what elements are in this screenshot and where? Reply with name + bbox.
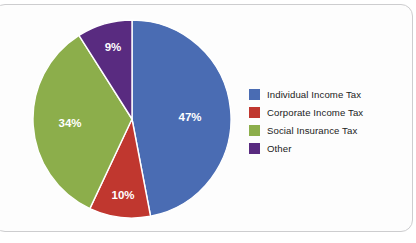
pie-chart-svg: 47%10%34%9% (32, 19, 232, 219)
pie-slice-label-other: 9% (105, 41, 122, 53)
pie-chart-area: 47%10%34%9% (32, 19, 232, 219)
legend-item-label: Individual Income Tax (267, 89, 361, 100)
pie-slice-label-individual-income-tax: 47% (178, 111, 201, 123)
legend-swatch-social-insurance-tax (249, 125, 260, 136)
chart-legend: Individual Income TaxCorporate Income Ta… (249, 86, 399, 158)
legend-item[interactable]: Corporate Income Tax (249, 104, 399, 121)
legend-item-label: Social Insurance Tax (267, 125, 357, 136)
legend-swatch-other (249, 143, 260, 154)
legend-item-label: Corporate Income Tax (267, 107, 363, 118)
legend-item[interactable]: Social Insurance Tax (249, 122, 399, 139)
pie-slice-label-corporate-income-tax: 10% (111, 189, 134, 201)
legend-swatch-individual-income-tax (249, 89, 260, 100)
legend-item[interactable]: Individual Income Tax (249, 86, 399, 103)
legend-swatch-corporate-income-tax (249, 107, 260, 118)
chart-figure: 47%10%34%9% Individual Income TaxCorpora… (0, 0, 416, 243)
legend-item-label: Other (267, 143, 292, 154)
legend-item[interactable]: Other (249, 140, 399, 157)
pie-slice-label-social-insurance-tax: 34% (58, 117, 81, 129)
